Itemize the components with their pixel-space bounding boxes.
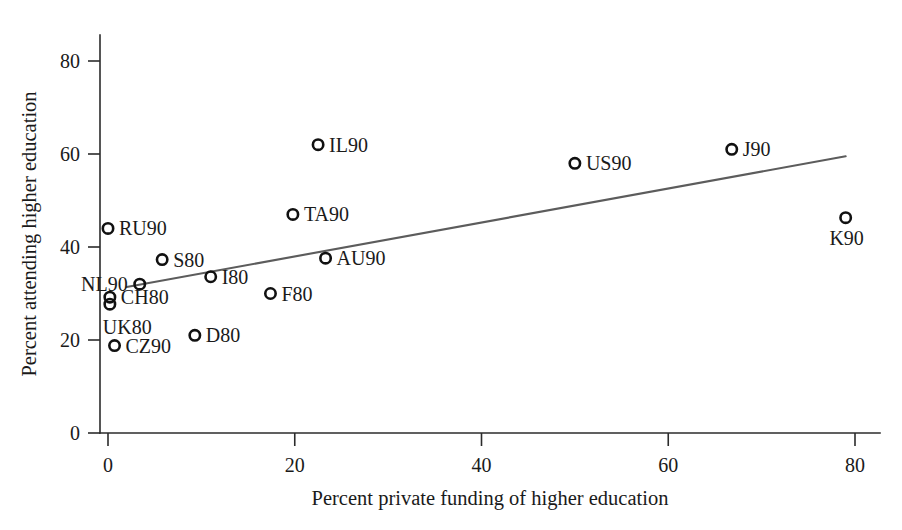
data-point-label-k90: K90 bbox=[829, 227, 863, 249]
data-point-label-s80: S80 bbox=[173, 249, 204, 271]
y-tick-label-20: 20 bbox=[60, 329, 80, 351]
y-tick-label-0: 0 bbox=[70, 422, 80, 444]
data-point-il90 bbox=[313, 140, 323, 150]
data-point-label-f80: F80 bbox=[281, 283, 312, 305]
data-point-label-ta90: TA90 bbox=[304, 203, 349, 225]
x-tick-label-40: 40 bbox=[472, 454, 492, 476]
data-point-j90 bbox=[727, 144, 737, 154]
data-point-label-au90: AU90 bbox=[337, 247, 386, 269]
data-point-label-cz90: CZ90 bbox=[126, 335, 172, 357]
data-point-d80 bbox=[190, 330, 200, 340]
data-point-au90 bbox=[320, 253, 330, 263]
y-tick-label-40: 40 bbox=[60, 236, 80, 258]
y-tick-label-80: 80 bbox=[60, 50, 80, 72]
data-point-s80 bbox=[157, 254, 167, 264]
data-point-us90 bbox=[570, 158, 580, 168]
data-point-cz90 bbox=[109, 340, 119, 350]
data-point-ta90 bbox=[288, 209, 298, 219]
x-axis-ticks: 020406080 bbox=[103, 433, 865, 476]
data-point-label-il90: IL90 bbox=[329, 134, 368, 156]
x-tick-label-0: 0 bbox=[103, 454, 113, 476]
data-point-k90 bbox=[840, 213, 850, 223]
y-axis-ticks: 020406080 bbox=[60, 50, 100, 444]
scatter-plot-figure: 020406080 020406080 RU90NL90S80CH80UK80C… bbox=[0, 0, 902, 530]
data-points-group: RU90NL90S80CH80UK80CZ90D80I80F80TA90IL90… bbox=[81, 134, 864, 357]
x-axis-title: Percent private funding of higher educat… bbox=[312, 487, 669, 510]
y-tick-label-60: 60 bbox=[60, 143, 80, 165]
data-point-label-ch80: CH80 bbox=[121, 286, 169, 308]
data-point-label-us90: US90 bbox=[586, 152, 632, 174]
data-point-f80 bbox=[265, 288, 275, 298]
x-tick-label-60: 60 bbox=[658, 454, 678, 476]
x-tick-label-80: 80 bbox=[845, 454, 865, 476]
axes-group bbox=[100, 35, 880, 433]
data-point-i80 bbox=[206, 272, 216, 282]
data-point-label-ru90: RU90 bbox=[119, 217, 167, 239]
data-point-label-i80: I80 bbox=[222, 266, 249, 288]
plot-canvas: 020406080 020406080 RU90NL90S80CH80UK80C… bbox=[0, 0, 902, 530]
data-point-label-j90: J90 bbox=[743, 138, 771, 160]
data-point-label-d80: D80 bbox=[206, 324, 240, 346]
data-point-ru90 bbox=[103, 223, 113, 233]
data-point-uk80 bbox=[105, 299, 115, 309]
y-axis-title: Percent attending higher education bbox=[18, 91, 41, 376]
x-tick-label-20: 20 bbox=[285, 454, 305, 476]
